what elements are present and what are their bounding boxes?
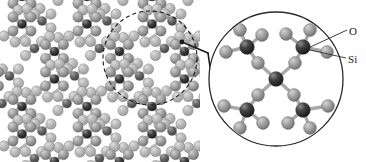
oxygen-atom — [64, 31, 74, 41]
oxygen-atom-terminal-11 — [322, 100, 335, 113]
silicon-atom — [147, 102, 156, 111]
oxygen-atom-terminal-9 — [282, 117, 295, 130]
oxygen-atom — [188, 81, 198, 91]
oxygen-atom — [156, 12, 166, 22]
silicon-bottom-left — [240, 103, 255, 118]
oxygen-atom — [73, 94, 83, 104]
silicon-top-right — [296, 40, 311, 55]
oxygen-atom — [105, 39, 115, 49]
oxygen-atom — [138, 122, 148, 132]
oxygen-atom-terminal-8 — [257, 117, 270, 130]
oxygen-atom — [26, 122, 36, 132]
oxygen-atom — [156, 136, 166, 146]
silicon-label: Si — [348, 53, 358, 65]
oxygen-atom — [40, 39, 50, 49]
oxygen-atom — [111, 119, 121, 129]
oxygen-atom — [40, 81, 50, 91]
oxygen-atom — [46, 9, 56, 19]
oxygen-atom — [188, 67, 198, 77]
oxygen-atom — [46, 119, 56, 129]
oxygen-atom — [40, 67, 50, 77]
oxygen-atom — [64, 141, 74, 151]
silicon-atom — [180, 74, 189, 83]
oxygen-atom — [75, 147, 85, 157]
oxygen-atom-terminal-6 — [218, 100, 231, 113]
oxygen-atom — [8, 26, 18, 36]
oxygen-atom — [161, 86, 171, 96]
silicon-atom — [50, 47, 59, 56]
oxygen-atom — [78, 64, 88, 74]
oxygen-atom — [150, 50, 160, 60]
silicon-atom — [82, 102, 91, 111]
oxygen-atom — [96, 86, 106, 96]
oxygen-atom — [138, 26, 148, 36]
oxygen-atom — [85, 36, 95, 46]
oxygen-atom — [10, 147, 20, 157]
oxygen-atom — [91, 136, 101, 146]
oxygen-atom — [26, 26, 36, 36]
oxygen-atom-terminal-0 — [220, 46, 233, 59]
figure-canvas — [0, 0, 366, 162]
oxygen-atom — [26, 12, 36, 22]
oxygen-atom — [8, 94, 18, 104]
oxygen-atom — [138, 136, 148, 146]
oxygen-atom — [20, 50, 30, 60]
oxygen-atom — [91, 26, 101, 36]
oxygen-atom — [118, 91, 128, 101]
oxygen-atom — [111, 9, 121, 19]
oxygen-atom-bridging-2 — [252, 89, 265, 102]
oxygen-atom — [183, 105, 193, 115]
silicon-atom — [17, 129, 26, 138]
silicon-atom — [50, 74, 59, 83]
oxygen-atom — [129, 31, 139, 41]
silicon-bottom-right — [296, 103, 311, 118]
oxygen-atom — [170, 149, 180, 159]
oxygen-atom — [172, 92, 182, 102]
silicon-atom — [17, 102, 26, 111]
oxygen-atom — [138, 12, 148, 22]
oxygen-atom — [176, 119, 186, 129]
silicon-atom — [115, 74, 124, 83]
oxygen-atom — [8, 122, 18, 132]
oxygen-atom — [58, 67, 68, 77]
oxygen-atom — [20, 36, 30, 46]
oxygen-atom — [140, 37, 150, 47]
oxygen-atom-bridging-0 — [252, 57, 265, 70]
silicon-atom-center — [269, 72, 284, 87]
silicon-atom — [115, 47, 124, 56]
oxygen-atom — [183, 91, 193, 101]
oxygen-atom — [26, 136, 36, 146]
oxygen-atom — [138, 94, 148, 104]
oxygen-atom-terminal-3 — [280, 28, 293, 41]
oxygen-atom-terminal-4 — [304, 24, 317, 37]
oxygen-atom — [31, 86, 41, 96]
oxygen-atom — [73, 12, 83, 22]
silicon-top-left — [240, 40, 255, 55]
oxygen-atom — [73, 26, 83, 36]
oxygen-atom — [53, 105, 63, 115]
oxygen-atom — [85, 146, 95, 156]
silicon-atom — [147, 19, 156, 28]
oxygen-atom — [156, 26, 166, 36]
oxygen-atom — [170, 81, 180, 91]
oxygen-atom-bridging-1 — [289, 57, 302, 70]
oxygen-atom — [10, 37, 20, 47]
oxygen-atom — [143, 64, 153, 74]
oxygen-atom — [107, 92, 117, 102]
oxygen-atom-terminal-5 — [321, 46, 334, 59]
oxygen-atom — [123, 67, 133, 77]
oxygen-atom — [13, 64, 23, 74]
oxygen-atom — [91, 122, 101, 132]
oxygen-atom — [170, 39, 180, 49]
oxygen-atom — [85, 50, 95, 60]
oxygen-atom — [140, 147, 150, 157]
oxygen-atom — [176, 9, 186, 19]
oxygen-atom — [105, 81, 115, 91]
oxygen-atom — [20, 146, 30, 156]
silicon-atom — [17, 19, 26, 28]
oxygen-atom-bridging-3 — [288, 89, 301, 102]
oxygen-atom — [123, 81, 133, 91]
silicon-atom — [82, 129, 91, 138]
oxygen-atom — [8, 12, 18, 22]
oxygen-atom — [75, 37, 85, 47]
